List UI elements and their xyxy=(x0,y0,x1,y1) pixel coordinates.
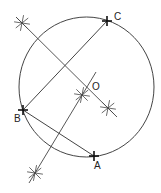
bisector-ba xyxy=(29,72,96,183)
perpendicular-bisectors xyxy=(16,17,117,183)
arc-cross-upper-left-icon xyxy=(14,15,30,31)
chord-ba xyxy=(23,110,94,156)
circle-through-three-points-diagram xyxy=(0,0,161,193)
arc-cross-lower-left-icon xyxy=(27,165,43,181)
point-label-b: B xyxy=(14,114,21,124)
point-label-a: A xyxy=(94,161,101,171)
arc-cross-center-icon xyxy=(74,87,90,103)
point-label-c: C xyxy=(114,12,121,22)
arc-cross-right-icon xyxy=(100,100,116,116)
point-label-o: O xyxy=(92,82,100,92)
